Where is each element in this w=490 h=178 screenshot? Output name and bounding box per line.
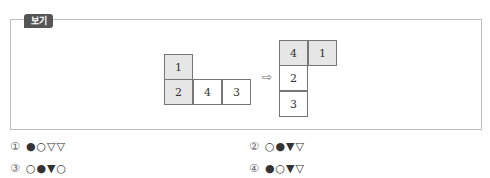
example-box xyxy=(10,19,482,130)
grid-cell: 3 xyxy=(222,79,251,105)
right-arrow-icon: ⇨ xyxy=(262,70,272,84)
choice-symbols: ○●▼○ xyxy=(26,162,67,175)
grid-cell: 2 xyxy=(279,65,308,91)
cropped-question-text xyxy=(10,0,130,2)
choice-number: ① xyxy=(10,140,20,153)
grid-cell: 1 xyxy=(164,54,193,80)
grid-cell: 2 xyxy=(164,79,193,105)
grid-cell: 4 xyxy=(279,40,308,66)
grid-cell: 1 xyxy=(308,40,337,66)
choice-number: ③ xyxy=(10,162,20,175)
choice-number: ② xyxy=(249,140,259,153)
choice-3[interactable]: ③○●▼○ xyxy=(10,162,67,175)
choice-symbols: ●○▽▽ xyxy=(26,140,66,153)
choice-4[interactable]: ④●○▼▽ xyxy=(249,162,305,175)
grid-cell: 4 xyxy=(193,79,222,105)
choice-number: ④ xyxy=(249,162,259,175)
choice-1[interactable]: ①●○▽▽ xyxy=(10,140,66,153)
grid-cell: 3 xyxy=(279,91,308,117)
choice-symbols: ●○▼▽ xyxy=(265,162,305,175)
choice-2[interactable]: ②○●▼▽ xyxy=(249,140,305,153)
example-box-label: 보기 xyxy=(24,14,53,28)
choice-symbols: ○●▼▽ xyxy=(265,140,305,153)
